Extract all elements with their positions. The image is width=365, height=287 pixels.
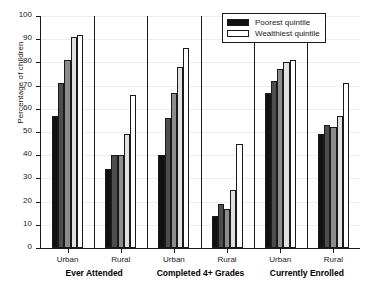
y-tick-label: 30 bbox=[10, 172, 32, 181]
y-tick-mark bbox=[36, 202, 40, 203]
x-tick-mark bbox=[121, 249, 122, 253]
legend-item: Wealthiest quintile bbox=[227, 28, 320, 39]
legend-swatch bbox=[227, 30, 249, 37]
y-tick-label: 0 bbox=[10, 242, 32, 251]
y-tick-mark bbox=[36, 178, 40, 179]
bar bbox=[130, 95, 136, 248]
y-tick-mark bbox=[36, 86, 40, 87]
y-tick-label: 100 bbox=[10, 10, 32, 19]
legend-item: Poorest quintile bbox=[227, 17, 320, 28]
y-tick-label: 10 bbox=[10, 219, 32, 228]
y-tick-label: 40 bbox=[10, 149, 32, 158]
y-tick-label: 50 bbox=[10, 126, 32, 135]
y-tick-mark bbox=[36, 155, 40, 156]
legend: Poorest quintileWealthiest quintile bbox=[222, 13, 326, 43]
y-tick-mark bbox=[36, 62, 40, 63]
group-separator bbox=[307, 16, 308, 248]
legend-swatch bbox=[227, 19, 249, 26]
y-tick-mark bbox=[36, 132, 40, 133]
y-tick-mark bbox=[36, 248, 40, 249]
x-tick-mark bbox=[333, 249, 334, 253]
legend-label: Poorest quintile bbox=[255, 18, 310, 27]
x-axis-line bbox=[40, 248, 360, 249]
y-tick-mark bbox=[36, 109, 40, 110]
bar-chart: Percentage of children 01020304050607080… bbox=[0, 0, 365, 287]
x-tick-mark bbox=[174, 249, 175, 253]
y-tick-label: 70 bbox=[10, 80, 32, 89]
y-tick-mark bbox=[36, 16, 40, 17]
x-axis-sub-label: Rural bbox=[298, 255, 365, 264]
group-separator bbox=[254, 16, 255, 248]
x-tick-mark bbox=[280, 249, 281, 253]
y-tick-label: 80 bbox=[10, 56, 32, 65]
bar bbox=[290, 60, 296, 248]
x-axis-group-label: Currently Enrolled bbox=[237, 268, 365, 278]
group-separator bbox=[147, 16, 148, 248]
bars-layer bbox=[41, 16, 360, 248]
legend-label: Wealthiest quintile bbox=[255, 29, 320, 38]
y-tick-label: 60 bbox=[10, 103, 32, 112]
y-tick-mark bbox=[36, 225, 40, 226]
bar bbox=[77, 35, 83, 248]
y-tick-mark bbox=[36, 39, 40, 40]
plot-area: 0102030405060708090100 UrbanRuralUrbanRu… bbox=[40, 16, 360, 248]
bar bbox=[343, 83, 349, 248]
group-separator bbox=[201, 16, 202, 248]
x-tick-mark bbox=[68, 249, 69, 253]
x-tick-mark bbox=[227, 249, 228, 253]
bar bbox=[236, 144, 242, 248]
group-separator bbox=[94, 16, 95, 248]
y-tick-label: 20 bbox=[10, 196, 32, 205]
y-tick-label: 90 bbox=[10, 33, 32, 42]
bar bbox=[183, 48, 189, 248]
